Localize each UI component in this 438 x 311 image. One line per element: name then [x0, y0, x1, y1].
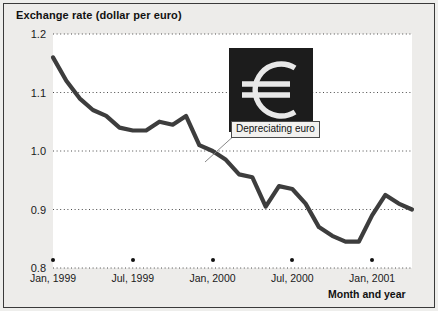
x-tick-label: Jul, 2000	[271, 272, 314, 284]
x-tick-marker	[51, 258, 55, 262]
x-tick-marker	[211, 258, 215, 262]
euro-symbol-icon	[229, 48, 313, 132]
annotation-caption: Depreciating euro	[231, 121, 320, 138]
x-tick-marker	[131, 258, 135, 262]
figure-container: Exchange rate (dollar per euro) 0.80.91.…	[0, 0, 438, 311]
x-tick-label: Jan, 1999	[30, 272, 76, 284]
x-tick-label: Jan, 2001	[349, 272, 395, 284]
x-tick-marker	[290, 258, 294, 262]
x-tick-label: Jan, 2000	[189, 272, 235, 284]
chart-svg	[0, 0, 438, 311]
x-tick-label: Jul, 1999	[111, 272, 154, 284]
x-tick-marker	[370, 258, 374, 262]
x-axis-title: Month and year	[328, 288, 406, 300]
euro-symbol-box	[229, 48, 313, 132]
